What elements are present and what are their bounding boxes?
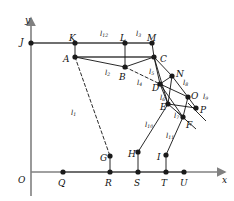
joint-C <box>151 54 156 59</box>
link-label-l3: l3 <box>136 31 141 39</box>
joint-U <box>181 169 186 174</box>
link-label-l2: l2 <box>105 70 110 78</box>
joint-label-F: F <box>186 121 192 130</box>
link-label-l6: l6 <box>160 95 165 103</box>
link-label-l8: l8 <box>183 80 188 88</box>
joint-label-L: L <box>120 34 126 43</box>
joint-label-Q: Q <box>58 179 65 188</box>
link-edge-B-D <box>125 67 160 84</box>
joint-label-G: G <box>100 154 107 163</box>
joint-B <box>122 64 127 69</box>
joint-A <box>72 54 77 59</box>
link-label-l12: l12 <box>100 31 108 39</box>
joints-group <box>28 40 198 174</box>
joint-label-H: H <box>128 150 136 159</box>
y-axis-label: y <box>25 16 30 25</box>
joint-label-K: K <box>69 34 76 43</box>
joint-label-N: N <box>176 70 184 79</box>
joint-S <box>135 169 140 174</box>
joint-P <box>193 105 198 110</box>
joint-H <box>135 149 140 154</box>
link-edge-B-C <box>125 57 154 67</box>
joint-label-R: R <box>105 179 112 188</box>
joint-F <box>180 114 185 119</box>
joint-label-B: B <box>119 73 126 82</box>
joint-label-S: S <box>134 179 140 188</box>
joint-O <box>185 94 190 99</box>
joint-label-D: D <box>152 84 159 93</box>
joint-label-I: I <box>157 153 161 162</box>
joint-I <box>163 152 168 157</box>
x-axis-label: x <box>222 176 227 185</box>
link-label-l1: l1 <box>71 110 76 118</box>
joint-Q <box>60 169 65 174</box>
origin-label: O <box>18 176 25 185</box>
joint-N <box>169 73 174 78</box>
linkage-diagram-svg <box>0 0 234 201</box>
joint-label-U: U <box>180 179 188 188</box>
link-edge-A-B <box>75 57 125 67</box>
link-label-l4: l4 <box>137 80 142 88</box>
joint-label-O: O <box>191 92 198 101</box>
link-label-l7: l7 <box>174 113 179 121</box>
joint-label-T: T <box>161 179 167 188</box>
link-label-l10: l10 <box>145 122 153 130</box>
link-label-l11: l11 <box>166 133 174 141</box>
joint-J <box>28 40 33 45</box>
link-label-l9: l9 <box>203 94 208 102</box>
link-edges-group <box>31 43 196 172</box>
figure-canvas: JKLMABCNDEOPFGHIQRSTUl1l2l3l4l5l6l7l8l9l… <box>0 0 234 201</box>
joint-R <box>107 169 112 174</box>
joint-label-E: E <box>160 103 167 112</box>
joint-G <box>107 153 112 158</box>
joint-T <box>163 169 168 174</box>
joint-label-M: M <box>147 34 156 43</box>
joint-label-C: C <box>160 55 167 64</box>
link-label-l5: l5 <box>149 69 154 77</box>
joint-label-J: J <box>20 38 24 47</box>
joint-label-P: P <box>200 106 206 115</box>
joint-label-A: A <box>63 55 70 64</box>
